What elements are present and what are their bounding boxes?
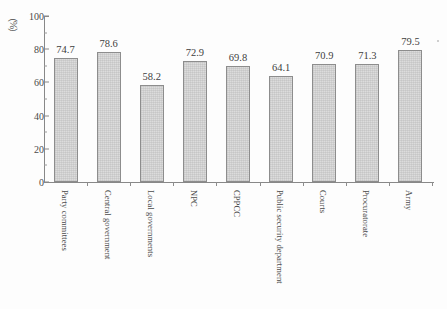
bar-value-label: 58.2 <box>143 71 161 82</box>
stray-speck <box>437 40 439 42</box>
bar <box>355 64 379 182</box>
bar <box>269 76 293 182</box>
y-tick-minor-mark <box>44 65 47 66</box>
x-tick-mark <box>130 182 131 186</box>
y-tick-mark <box>44 16 49 17</box>
bar-hatch-fill <box>98 53 120 181</box>
x-tick-mark <box>432 182 433 186</box>
x-axis-category-label: Local governments <box>146 190 156 257</box>
y-tick-minor-mark <box>44 165 47 166</box>
x-tick-mark <box>389 182 390 186</box>
y-axis-ticks: 020406080100 <box>0 0 44 183</box>
y-tick-minor-mark <box>44 132 47 133</box>
bar-hatch-fill <box>270 77 292 181</box>
bar-hatch-fill <box>184 62 206 181</box>
x-tick-mark <box>216 182 217 186</box>
y-tick-label: 20 <box>22 143 44 154</box>
bar-value-label: 71.3 <box>358 50 376 61</box>
bar-hatch-fill <box>313 65 335 181</box>
x-axis-category-label: Courts <box>318 190 328 213</box>
bar-hatch-fill <box>141 86 163 181</box>
bar-value-label: 79.5 <box>401 36 419 47</box>
x-axis-line <box>44 182 434 183</box>
x-tick-mark <box>346 182 347 186</box>
x-axis-category-label: NPC <box>189 190 199 207</box>
bar-hatch-fill <box>227 67 249 181</box>
bar-hatch-fill <box>399 51 421 181</box>
y-tick-mark <box>44 49 49 50</box>
bar-value-label: 64.1 <box>272 62 290 73</box>
y-tick-label: 0 <box>22 177 44 188</box>
bar-hatch-fill <box>55 59 77 181</box>
x-axis-category-label: Procuratorate <box>361 190 371 237</box>
x-axis-category-label: Army <box>404 190 414 210</box>
bar-chart: （%） 020406080100 74.778.658.272.969.864.… <box>0 0 447 309</box>
bar <box>312 64 336 182</box>
x-axis-category-label: Public security department <box>275 190 285 284</box>
bar <box>226 66 250 182</box>
x-tick-mark <box>87 182 88 186</box>
y-tick-label: 60 <box>22 77 44 88</box>
y-tick-mark <box>44 148 49 149</box>
x-axis-category-label: Party committees <box>60 190 70 251</box>
x-axis-category-label: CPPCC <box>232 190 242 217</box>
bar-value-label: 78.6 <box>99 38 117 49</box>
bar-value-label: 70.9 <box>315 50 333 61</box>
y-tick-label: 40 <box>22 110 44 121</box>
bar-value-label: 74.7 <box>56 44 74 55</box>
y-tick-minor-mark <box>44 99 47 100</box>
x-tick-mark <box>173 182 174 186</box>
y-tick-mark <box>44 82 49 83</box>
bar-value-label: 69.8 <box>229 52 247 63</box>
x-tick-mark <box>303 182 304 186</box>
bar <box>183 61 207 182</box>
y-tick-mark <box>44 182 49 183</box>
bar <box>398 50 422 182</box>
y-tick-label: 80 <box>22 44 44 55</box>
bar <box>140 85 164 182</box>
y-tick-label: 100 <box>22 11 44 22</box>
bar-hatch-fill <box>356 65 378 181</box>
x-tick-mark <box>260 182 261 186</box>
bar-value-label: 72.9 <box>186 47 204 58</box>
y-tick-mark <box>44 115 49 116</box>
bar <box>54 58 78 182</box>
y-tick-minor-mark <box>44 32 47 33</box>
x-axis-category-label: Central government <box>103 190 113 260</box>
bar <box>97 52 121 182</box>
